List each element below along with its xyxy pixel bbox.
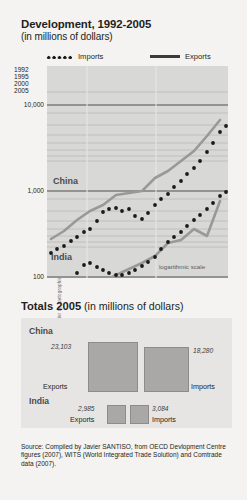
series-annotation-india: India [51, 252, 72, 262]
log-scale-note: logarithmic scale [159, 263, 205, 270]
page-subtitle: (in millions of dollars) [21, 31, 236, 43]
bar-caption-india-imports: Imports [152, 415, 176, 424]
dotted-line-icon [46, 55, 73, 59]
totals-country-china: China [29, 326, 53, 336]
chart-legend: Imports Exports [46, 52, 231, 64]
bar-value-india-exports: 2,985 [78, 405, 95, 412]
page-title: Development, 1992-2005 [21, 18, 236, 31]
bar-china-imports [144, 347, 189, 392]
totals-heading-rest: (in millions of dollars) [81, 300, 183, 312]
legend-label-exports: Exports [185, 52, 211, 61]
totals-heading-bold: Totals 2005 [21, 300, 81, 312]
plot-svg [47, 66, 228, 278]
line-chart: 10,000 1,000 100 1992 1995 2000 2005 [14, 66, 233, 288]
vertical-gridlines [87, 66, 156, 278]
totals-country-india: India [29, 396, 49, 406]
chart-title-block: Development, 1992-2005 (in millions of d… [21, 18, 236, 43]
legend-item-imports: Imports [46, 52, 103, 61]
bar-caption-china-imports: Imports [191, 382, 215, 391]
bar-china-exports [88, 342, 138, 392]
infographic-root: Sciences Po / CERI et Atelier de cartogr… [0, 0, 247, 500]
legend-label-imports: Imports [78, 52, 103, 61]
bar-value-china-imports: 18,280 [193, 347, 213, 354]
bar-value-india-imports: 3,084 [152, 405, 169, 412]
y-tick-100: 100 [14, 273, 44, 280]
totals-heading: Totals 2005 (in millions of dollars) [21, 300, 184, 312]
bar-caption-china-exports: Exports [43, 382, 67, 391]
bar-india-exports [107, 405, 126, 424]
solid-line-icon [150, 55, 180, 58]
totals-panel: China 23,103 Exports 18,280 Imports Indi… [21, 318, 232, 428]
bar-value-china-exports: 23,103 [51, 343, 71, 350]
y-tick-1000: 1,000 [14, 187, 44, 194]
series-annotation-china: China [53, 176, 78, 186]
source-note: Source: Compiled by Javier SANTISO, from… [21, 443, 233, 468]
bar-india-imports [130, 405, 149, 424]
bar-caption-india-exports: Exports [70, 415, 94, 424]
legend-item-exports: Exports [150, 52, 211, 61]
plot-area: China India logarithmic scale [47, 66, 228, 278]
y-tick-10000: 10,000 [14, 101, 44, 108]
